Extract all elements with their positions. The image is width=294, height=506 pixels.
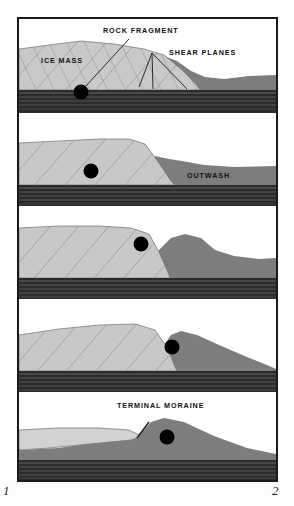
rock-fragment <box>74 85 89 100</box>
label-ice-mass: ICE MASS <box>41 56 83 65</box>
rock-fragment <box>84 164 99 179</box>
panel-stage-2: OUTWASH <box>19 113 276 206</box>
label-outwash: OUTWASH <box>187 171 230 180</box>
figure-frame: ROCK FRAGMENT SHEAR PLANES ICE MASS <box>17 17 278 482</box>
rock-fragment <box>160 430 175 445</box>
label-shear-planes: SHEAR PLANES <box>169 48 236 57</box>
rock-fragment <box>134 237 149 252</box>
figure-number-left: 1 <box>3 484 10 497</box>
label-terminal-moraine: TERMINAL MORAINE <box>117 401 204 410</box>
bedrock-layer <box>19 185 276 206</box>
rock-fragment <box>165 340 180 355</box>
figure-number-right: 2 <box>272 484 279 497</box>
panel-stage-5: TERMINAL MORAINE <box>19 392 276 480</box>
bedrock-layer <box>19 90 276 113</box>
panel-stage-4 <box>19 299 276 392</box>
bedrock-layer <box>19 371 276 392</box>
bedrock-layer <box>19 460 276 480</box>
label-rock-fragment: ROCK FRAGMENT <box>103 26 179 35</box>
bedrock-layer <box>19 278 276 299</box>
panel-stage-1: ROCK FRAGMENT SHEAR PLANES ICE MASS <box>19 19 276 113</box>
ice-mass-body <box>19 226 170 278</box>
panel-stage-3 <box>19 206 276 299</box>
